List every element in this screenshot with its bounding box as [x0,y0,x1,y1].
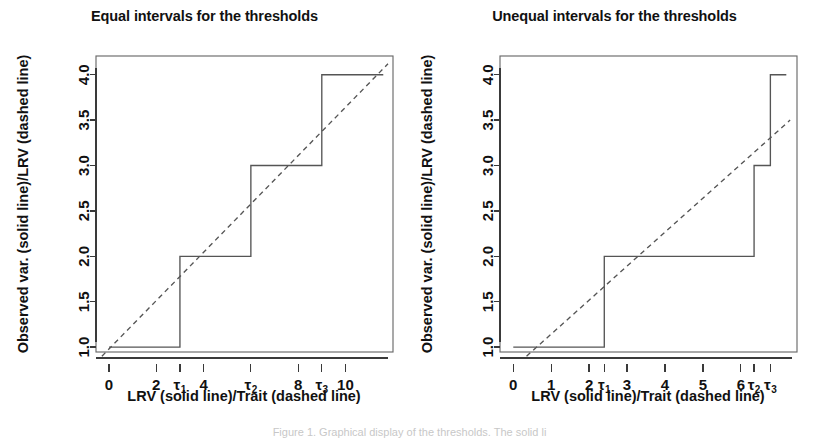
figure-panel-pair: Equal intervals for the thresholds 1.01.… [0,0,819,440]
y-tick-label: 1.0 [479,337,496,358]
x-axis-label-equal: LRV (solid line)/Trait (dashed line) [127,388,361,404]
y-tick-label: 1.5 [479,291,496,312]
y-tick-label: 2.0 [479,246,496,267]
plot-svg-equal: 1.01.52.02.53.03.54.0 02τ14τ28τ310 LRV (… [0,0,409,440]
y-tick-label: 4.0 [75,64,92,85]
x-tick-label: τ3 [764,376,777,395]
y-tick-label: 4.0 [479,64,496,85]
x-tick-label: 0 [105,376,113,393]
y-ticks-unequal: 1.01.52.02.53.03.54.0 [479,64,500,357]
panel-unequal-intervals: Unequal intervals for the thresholds 1.0… [410,0,819,440]
y-tick-label: 1.0 [75,337,92,358]
y-tick-label: 3.5 [479,110,496,131]
panel-equal-intervals: Equal intervals for the thresholds 1.01.… [0,0,409,440]
y-axis-label-unequal: Observed var. (solid line)/LRV (dashed l… [419,54,435,353]
y-tick-label: 2.5 [479,200,496,221]
y-tick-label: 3.0 [479,155,496,176]
plot-box-unequal [500,56,797,352]
lrv-dashed-path [102,64,388,356]
y-tick-label: 3.0 [75,155,92,176]
y-tick-label: 1.5 [75,291,92,312]
y-tick-label: 2.0 [75,246,92,267]
y-tick-label: 3.5 [75,110,92,131]
x-tick-label: 0 [509,376,517,393]
step-function-path [513,75,786,347]
plot-box-equal [96,56,393,352]
plot-svg-unequal: 1.01.52.02.53.03.54.0 012τ13456τ2τ3 LRV … [410,0,819,440]
y-tick-label: 2.5 [75,200,92,221]
series-lrv-dashed-unequal [527,120,791,356]
series-lrv-dashed-equal [102,64,388,356]
lrv-dashed-path [527,120,791,356]
x-axis-label-unequal: LRV (solid line)/Trait (dashed line) [531,388,765,404]
y-axis-label-equal: Observed var. (solid line)/LRV (dashed l… [15,54,31,353]
figure-caption: Figure 1. Graphical display of the thres… [0,426,819,440]
y-ticks-equal: 1.01.52.02.53.03.54.0 [75,64,96,357]
series-observed-step-equal [109,75,383,347]
step-function-path [109,75,383,347]
series-observed-step-unequal [513,75,786,347]
